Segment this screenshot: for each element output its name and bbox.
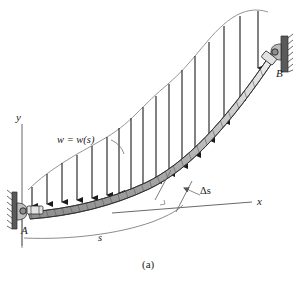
wall-hatch-b	[288, 34, 293, 72]
support-a-label: A	[20, 224, 28, 236]
arc-length-label: s	[98, 232, 102, 243]
cable-diagram-svg: y x	[0, 0, 302, 284]
x-axis-label: x	[256, 195, 262, 207]
wall-hatch-a	[7, 190, 12, 229]
load-boundary-curve	[28, 10, 268, 190]
y-axis-label: y	[15, 111, 21, 123]
figure-container: y x	[0, 0, 302, 284]
figure-caption: (a)	[142, 258, 155, 271]
load-function-leader	[111, 140, 124, 154]
support-b-label: B	[276, 67, 283, 79]
load-arrows-group	[32, 11, 258, 206]
delta-s-label: Δs	[200, 185, 211, 196]
x-axis	[112, 202, 252, 213]
load-function-label: w = w(s)	[57, 134, 95, 146]
